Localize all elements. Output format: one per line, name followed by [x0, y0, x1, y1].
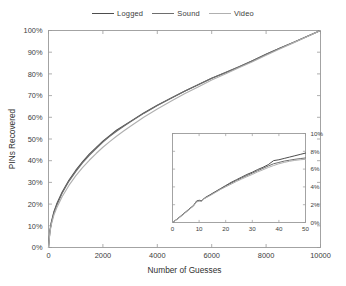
inset-x-tick-label: 40 — [275, 225, 282, 232]
inset-y-tick-label: 4% — [311, 183, 320, 190]
y-tick-label: 60% — [28, 113, 43, 122]
inset-x-tick-label: 30 — [249, 225, 256, 232]
inset-y-tick-label: 6% — [311, 165, 320, 172]
x-tick-label: 4000 — [149, 251, 165, 260]
inset-y-tick-label: 10% — [311, 130, 324, 137]
inset-y-tick-label: 0% — [311, 219, 320, 226]
inset-x-tick-label: 20 — [222, 225, 229, 232]
pins-recovered-chart: Logged Sound Video 020004000600080001000… — [0, 0, 346, 286]
y-tick-label: 90% — [28, 48, 43, 57]
inset-x-tick-label: 50 — [302, 225, 309, 232]
x-tick-label: 2000 — [95, 251, 111, 260]
y-tick-label: 70% — [28, 91, 43, 100]
inset-y-tick-label: 8% — [311, 148, 320, 155]
y-tick-label: 10% — [28, 222, 43, 231]
y-tick-label: 30% — [28, 178, 43, 187]
y-tick-label: 80% — [28, 70, 43, 79]
x-tick-label: 0 — [46, 251, 50, 260]
x-tick-label: 10000 — [310, 251, 331, 260]
y-tick-label: 50% — [28, 135, 43, 144]
y-tick-label: 40% — [28, 156, 43, 165]
y-tick-label: 100% — [24, 26, 43, 35]
inset-x-tick-label: 10 — [196, 225, 203, 232]
y-tick-label: 0% — [32, 243, 43, 252]
x-tick-label: 8000 — [258, 251, 274, 260]
inset-y-tick-label: 2% — [311, 201, 320, 208]
plot-canvas: 02000400060008000100000%10%20%30%40%50%6… — [0, 0, 346, 286]
x-axis-title: Number of Guesses — [148, 265, 222, 275]
x-tick-label: 6000 — [203, 251, 219, 260]
y-tick-label: 20% — [28, 200, 43, 209]
inset-x-tick-label: 0 — [171, 225, 175, 232]
y-axis-title: PINs Recovered — [7, 108, 17, 169]
